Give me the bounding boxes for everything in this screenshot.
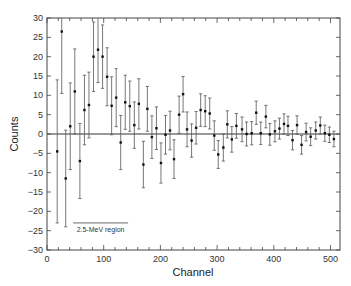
data-point (286, 116, 289, 135)
data-point (142, 141, 145, 187)
data-point (295, 116, 298, 135)
data-point (217, 141, 220, 169)
data-point (159, 143, 162, 183)
data-point (259, 122, 262, 144)
data-point (64, 130, 67, 227)
data-point (199, 94, 202, 126)
data-point (222, 134, 225, 161)
annotations: 2.5-MeV region (73, 223, 128, 234)
data-point (235, 114, 238, 139)
data-point (73, 49, 76, 134)
data-point (323, 125, 326, 141)
data-point (245, 122, 248, 146)
data-point (150, 116, 153, 159)
data-point (282, 114, 285, 134)
data-point (230, 127, 233, 153)
data-point (56, 80, 59, 223)
y-tick-label: 25 (33, 32, 43, 42)
data-point (255, 101, 258, 124)
data-point (264, 105, 267, 127)
x-tick-label: 0 (44, 254, 49, 264)
data-point (250, 122, 253, 145)
data-point (78, 124, 81, 199)
data-point (87, 72, 90, 138)
data-point (172, 140, 175, 179)
y-tick-label: −15 (28, 187, 43, 197)
y-tick-label: −30 (28, 245, 43, 255)
y-tick-label: 20 (33, 52, 43, 62)
data-point (328, 127, 331, 142)
data-point (69, 83, 72, 170)
data-point (213, 121, 216, 150)
data-point (204, 96, 207, 127)
data-point (185, 112, 188, 147)
data-point (195, 112, 198, 144)
chart: 0100200300400500 −30−25−20−15−10−5051015… (0, 0, 351, 286)
data-point (110, 77, 113, 135)
data-point (60, 18, 63, 93)
data-point (155, 107, 158, 150)
data-point (128, 81, 131, 131)
data-point (119, 115, 122, 169)
x-axis-title: Channel (173, 266, 214, 278)
data-point (319, 117, 322, 134)
data-point (300, 136, 303, 155)
data-point (178, 96, 181, 133)
region-label: 2.5-MeV region (77, 226, 125, 234)
y-tick-label: −10 (28, 168, 43, 178)
data-point (309, 128, 312, 146)
x-tick-label: 500 (323, 254, 338, 264)
data-point (181, 76, 184, 112)
y-tick-label: −20 (28, 206, 43, 216)
y-tick-label: 10 (33, 90, 43, 100)
data-point (278, 118, 281, 139)
data-point (137, 79, 140, 129)
data-point (208, 98, 211, 129)
data-point (314, 122, 317, 139)
data-point (168, 111, 171, 150)
x-tick-label: 200 (153, 254, 168, 264)
y-tick-label: 15 (33, 71, 43, 81)
x-tick-label: 300 (210, 254, 225, 264)
data-point (101, 25, 104, 88)
data-point (92, 22, 95, 92)
data-point (96, 18, 99, 83)
y-tick-label: 30 (33, 13, 43, 23)
y-tick-label: −5 (33, 148, 43, 158)
data-point (291, 131, 294, 150)
data-point (268, 124, 271, 146)
data-point (106, 48, 109, 106)
data-point (133, 102, 136, 148)
data-point (305, 123, 308, 141)
y-tick-label: 5 (38, 110, 43, 120)
data-point (190, 124, 193, 157)
x-tick-label: 100 (96, 254, 111, 264)
data-point (146, 86, 149, 131)
y-tick-label: 0 (38, 129, 43, 139)
data-point (124, 75, 127, 129)
y-tick-label: −25 (28, 226, 43, 236)
y-axis-title: Counts (8, 116, 20, 151)
x-tick-label: 400 (266, 254, 281, 264)
data-point (164, 115, 167, 154)
data-point (273, 121, 276, 142)
data-point (240, 117, 243, 142)
data-points (56, 18, 336, 227)
data-point (115, 69, 118, 127)
